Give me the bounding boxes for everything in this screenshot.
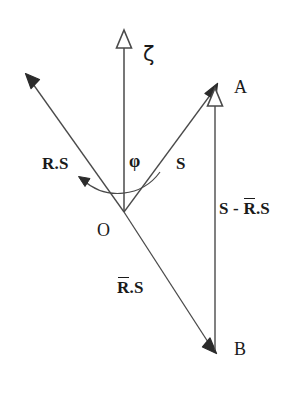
phi-angle-arc	[79, 172, 161, 193]
phi-arc-arrowhead-icon	[79, 177, 91, 187]
vector-label-r-dot-s-main: R	[42, 154, 54, 173]
vector-label-r-dot-s-rest: .S	[54, 154, 68, 173]
rs-vector	[26, 74, 125, 213]
zeta-axis-arrowhead-icon	[117, 30, 132, 48]
vector-label-rbar-dot-s-rest: .S	[129, 278, 143, 297]
point-label-o: O	[97, 221, 110, 239]
phi-arc-path	[83, 172, 160, 193]
point-label-a: A	[234, 78, 247, 96]
zeta-axis-vector	[117, 30, 132, 212]
vector-label-rbar-dot-s: R.S	[117, 279, 144, 296]
vector-label-rbar-overbar-main: R	[117, 279, 129, 296]
vector-label-s: S	[176, 155, 186, 172]
zeta-axis-label: ζ	[143, 44, 154, 65]
vector-label-s-main: S	[176, 154, 186, 173]
vector-label-r-dot-s: R.S	[42, 155, 69, 172]
phi-angle-label: φ	[129, 152, 140, 170]
s-minus-rbar-s-vector	[208, 88, 223, 350]
vector-label-s-minus-rest: .S	[256, 199, 270, 218]
rbar-s-vector-line	[124, 212, 208, 342]
vector-label-s-minus-prefix: S -	[219, 199, 243, 218]
vector-label-s-minus-rbar-main: R	[243, 200, 255, 217]
s-vector	[124, 84, 218, 213]
rs-arrowhead-icon	[26, 74, 40, 89]
vector-diagram: ζ φ R.S S R.S S - R.S A O B	[0, 0, 308, 394]
point-label-b: B	[234, 340, 246, 358]
vector-label-s-minus-rbar-dot-s: S - R.S	[219, 200, 270, 217]
